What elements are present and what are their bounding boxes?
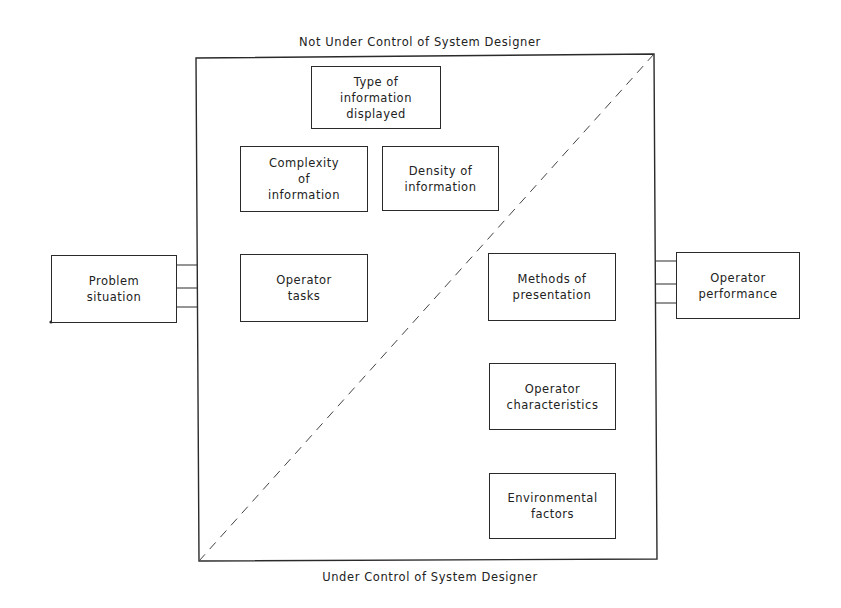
- operator-tasks-box: Operator tasks: [240, 254, 368, 322]
- type-of-information-box: Type of information displayed: [311, 66, 441, 129]
- environmental-factors-box: Environmental factors: [489, 473, 616, 539]
- operator-characteristics-box: Operator characteristics: [489, 363, 616, 430]
- top-caption: Not Under Control of System Designer: [270, 35, 570, 49]
- diagram-canvas: Not Under Control of System Designer Und…: [0, 0, 841, 608]
- methods-of-presentation-box: Methods of presentation: [488, 253, 616, 321]
- complexity-of-information-box: Complexity of information: [240, 146, 368, 212]
- bottom-caption: Under Control of System Designer: [300, 570, 560, 584]
- density-of-information-box: Density of information: [382, 146, 499, 211]
- operator-performance-box: Operator performance: [676, 252, 800, 319]
- problem-situation-box: Problem situation: [51, 255, 177, 323]
